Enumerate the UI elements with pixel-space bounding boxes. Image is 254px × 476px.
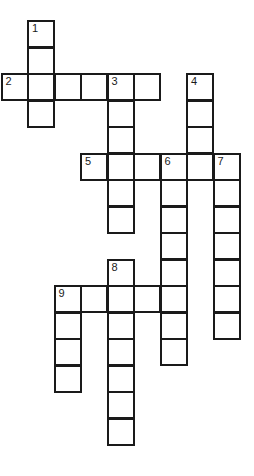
crossword-cell[interactable]: [133, 285, 161, 313]
crossword-cell[interactable]: [107, 391, 135, 419]
clue-number: 3: [112, 76, 118, 87]
crossword-cell[interactable]: [186, 126, 214, 154]
crossword-cell[interactable]: [160, 206, 188, 234]
crossword-cell[interactable]: [160, 232, 188, 260]
crossword-cell[interactable]: [54, 73, 82, 101]
crossword-cell[interactable]: [186, 100, 214, 128]
crossword-cell[interactable]: 1: [27, 20, 55, 48]
crossword-cell[interactable]: [107, 312, 135, 340]
clue-number: 8: [112, 262, 118, 273]
crossword-cell[interactable]: [160, 285, 188, 313]
crossword-cell[interactable]: [107, 100, 135, 128]
crossword-cell[interactable]: [27, 73, 55, 101]
crossword-grid: 123456789: [0, 0, 254, 476]
crossword-cell[interactable]: [107, 179, 135, 207]
crossword-cell[interactable]: [107, 153, 135, 181]
crossword-cell[interactable]: [107, 206, 135, 234]
crossword-cell[interactable]: [107, 418, 135, 446]
clue-number: 9: [59, 288, 65, 299]
crossword-cell[interactable]: [107, 338, 135, 366]
crossword-cell[interactable]: [54, 312, 82, 340]
crossword-cell[interactable]: [160, 179, 188, 207]
clue-number: 1: [32, 23, 38, 34]
crossword-cell[interactable]: [107, 365, 135, 393]
crossword-cell[interactable]: [213, 232, 241, 260]
crossword-cell[interactable]: [133, 73, 161, 101]
crossword-cell[interactable]: 8: [107, 259, 135, 287]
crossword-cell[interactable]: [80, 285, 108, 313]
crossword-cell[interactable]: [160, 312, 188, 340]
crossword-cell[interactable]: [107, 126, 135, 154]
crossword-cell[interactable]: [27, 47, 55, 75]
clue-number: 4: [191, 76, 197, 87]
crossword-cell[interactable]: 4: [186, 73, 214, 101]
clue-number: 6: [165, 156, 171, 167]
crossword-cell[interactable]: [213, 179, 241, 207]
crossword-cell[interactable]: [80, 73, 108, 101]
crossword-cell[interactable]: 6: [160, 153, 188, 181]
crossword-cell[interactable]: 3: [107, 73, 135, 101]
clue-number: 2: [6, 76, 12, 87]
crossword-cell[interactable]: [160, 338, 188, 366]
crossword-cell[interactable]: [54, 365, 82, 393]
crossword-cell[interactable]: [160, 259, 188, 287]
crossword-cell[interactable]: [54, 338, 82, 366]
crossword-cell[interactable]: [107, 285, 135, 313]
crossword-cell[interactable]: 2: [1, 73, 29, 101]
crossword-cell[interactable]: [213, 259, 241, 287]
crossword-cell[interactable]: [27, 100, 55, 128]
crossword-cell[interactable]: [186, 153, 214, 181]
crossword-cell[interactable]: 9: [54, 285, 82, 313]
crossword-cell[interactable]: 5: [80, 153, 108, 181]
crossword-cell[interactable]: [133, 153, 161, 181]
crossword-cell[interactable]: [213, 206, 241, 234]
clue-number: 7: [218, 156, 224, 167]
crossword-cell[interactable]: [213, 312, 241, 340]
crossword-cell[interactable]: [213, 285, 241, 313]
clue-number: 5: [85, 156, 91, 167]
crossword-cell[interactable]: 7: [213, 153, 241, 181]
